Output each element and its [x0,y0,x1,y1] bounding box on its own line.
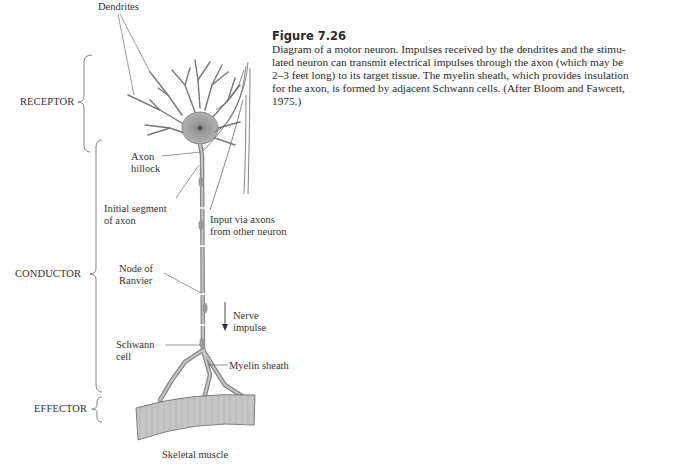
label-nerve-impulse: Nerve impulse [233,310,266,334]
label-effector: EFFECTOR [34,403,87,415]
receptor-brace [78,55,92,152]
conductor-brace [90,140,102,392]
effector-brace [92,397,102,422]
label-dendrites: Dendrites [98,1,139,13]
nerve-impulse-arrow [222,302,228,331]
label-myelin-sheath: Myelin sheath [229,360,289,372]
label-initial-segment: Initial segment of axon [104,203,167,227]
skeletal-muscle [136,395,255,440]
label-skeletal-muscle: Skeletal muscle [162,449,228,461]
label-conductor: CONDUCTOR [15,268,81,280]
motor-neuron-diagram [0,0,690,472]
label-receptor: RECEPTOR [20,96,74,108]
label-schwann-cell: Schwann cell [116,339,155,363]
axon [199,144,208,350]
label-node-of-ranvier: Node of Ranvier [119,263,153,287]
label-axon-hillock: Axon hillock [131,151,160,175]
label-input-axons: Input via axons from other neuron [210,214,286,238]
